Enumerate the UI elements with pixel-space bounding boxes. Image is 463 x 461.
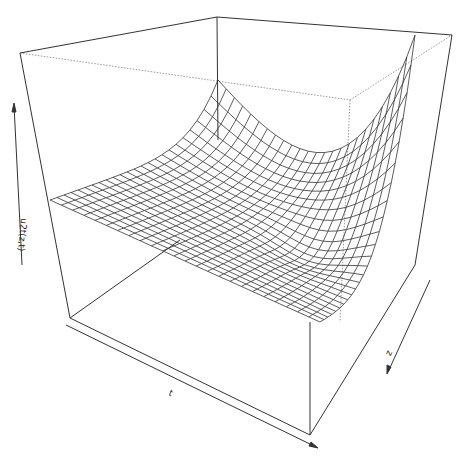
persp-plot: u2t(z,t) t z xyxy=(0,0,463,461)
zz-arrowhead-icon xyxy=(387,365,391,374)
y-axis-label: z xyxy=(384,349,395,358)
z2-axis-arrow xyxy=(388,280,430,372)
surface-plot-canvas: u2t(z,t) t z xyxy=(0,0,463,461)
t-arrowhead-icon xyxy=(309,442,318,448)
surface-mesh xyxy=(50,35,415,322)
t-axis-arrow xyxy=(66,325,316,447)
z-axis-label: u2t(z,t) xyxy=(16,218,29,252)
z-arrowhead-icon xyxy=(12,103,16,112)
x-axis-label: t xyxy=(167,388,175,399)
surface-wireframe xyxy=(50,35,415,322)
